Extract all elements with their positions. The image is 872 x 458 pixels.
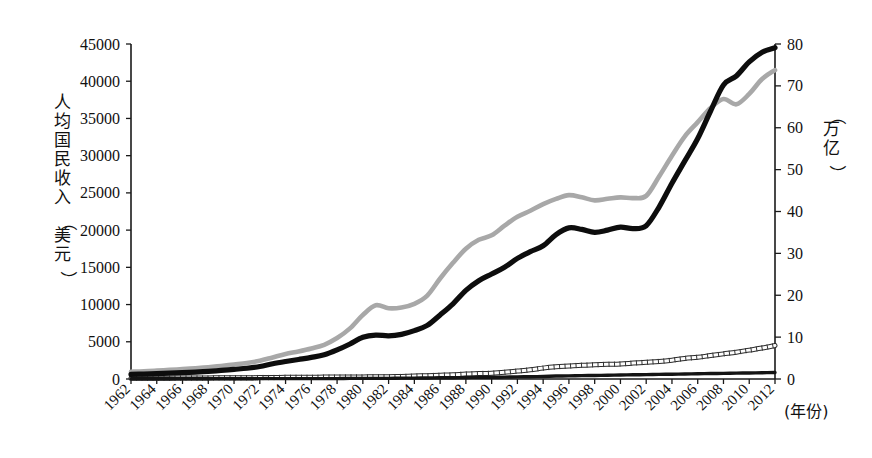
x-axis-tick-label: 2008 bbox=[693, 381, 726, 414]
y-axis-left-tick-label: 20000 bbox=[80, 222, 120, 239]
y-axis-left-tick-label: 25000 bbox=[80, 184, 120, 201]
series-hatch-mark bbox=[537, 366, 538, 371]
x-axis-tick-label: 1982 bbox=[358, 381, 391, 414]
y-axis-right-tick-label: 10 bbox=[787, 329, 803, 346]
series-hatch-mark bbox=[548, 365, 549, 370]
x-axis-tick-label: 1980 bbox=[332, 381, 365, 414]
series-hatch-mark bbox=[724, 351, 725, 356]
x-axis-ticks: 1962196419661968197019721974197619781980… bbox=[101, 379, 778, 413]
series-hatch-mark bbox=[669, 358, 670, 363]
y-axis-left-title-char: 收 bbox=[54, 168, 71, 188]
series-hatch-mark bbox=[543, 366, 544, 371]
series-line-thick-black-line bbox=[131, 48, 775, 375]
series-hatch-mark bbox=[510, 369, 511, 374]
y-axis-right-tick-label: 80 bbox=[787, 36, 803, 53]
chart-canvas: 0500010000150002000025000300003500040000… bbox=[0, 0, 872, 458]
x-axis-tick-label: 1972 bbox=[229, 381, 262, 414]
y-axis-right-title-char: 亿 bbox=[823, 138, 840, 158]
y-axis-left-tick-label: 40000 bbox=[80, 73, 120, 90]
y-axis-right-tick-label: 20 bbox=[787, 287, 803, 304]
y-axis-left-title-char: 美 bbox=[54, 225, 71, 245]
x-axis-tick-label: 1968 bbox=[178, 381, 211, 414]
x-axis-tick-label: 1984 bbox=[384, 380, 417, 413]
series-hatch-mark bbox=[718, 352, 719, 357]
y-axis-right-title: （万亿） bbox=[823, 108, 848, 182]
series-hatch-mark bbox=[532, 367, 533, 372]
y-axis-left-title-char: 元 bbox=[54, 244, 71, 264]
x-axis-tick-label: 1966 bbox=[152, 380, 185, 413]
x-axis-tick-label: 1964 bbox=[126, 380, 159, 413]
x-axis-tick-label: 1976 bbox=[281, 380, 314, 413]
y-axis-left-tick-label: 15000 bbox=[80, 259, 120, 276]
x-axis-tick-label: 2004 bbox=[642, 380, 675, 413]
y-axis-left-tick-label: 45000 bbox=[80, 36, 120, 53]
y-axis-right-tick-label: 60 bbox=[787, 119, 803, 136]
y-axis-left-ticks: 0500010000150002000025000300003500040000… bbox=[80, 36, 131, 388]
y-axis-left-tick-label: 30000 bbox=[80, 147, 120, 164]
y-axis-right-tick-label: 0 bbox=[787, 371, 795, 388]
y-axis-left-title-char: 均 bbox=[54, 111, 71, 131]
series-hatch-mark bbox=[702, 354, 703, 359]
x-axis-tick-label: 1986 bbox=[410, 380, 443, 413]
series-hatch-mark bbox=[675, 357, 676, 362]
x-axis-tick-label: 1998 bbox=[564, 381, 597, 414]
y-axis-left-title-char: 国 bbox=[54, 130, 71, 150]
series-hatch-mark bbox=[707, 353, 708, 358]
x-axis-tick-label: 1974 bbox=[255, 380, 288, 413]
x-axis-tick-label: 1994 bbox=[513, 380, 546, 413]
series-hatch-mark bbox=[729, 351, 730, 356]
x-axis-unit-label: (年份) bbox=[784, 402, 828, 421]
chart-figure: 0500010000150002000025000300003500040000… bbox=[0, 0, 872, 458]
series-line-thick-gray-line bbox=[131, 70, 775, 372]
x-axis-tick-label: 1962 bbox=[101, 381, 134, 414]
series-hatch-mark bbox=[527, 368, 528, 373]
x-axis-tick-label: 1978 bbox=[307, 381, 340, 414]
y-axis-right-tick-label: 70 bbox=[787, 77, 803, 94]
y-axis-left-title-char: 民 bbox=[54, 149, 71, 169]
y-axis-left-tick-label: 10000 bbox=[80, 296, 120, 313]
y-axis-left-title: 人均国民收入（美元） bbox=[54, 92, 79, 288]
series-hatch-mark bbox=[713, 353, 714, 358]
y-axis-right-title-char: ） bbox=[827, 165, 847, 182]
y-axis-left-tick-label: 35000 bbox=[80, 110, 120, 127]
x-axis-tick-label: 1970 bbox=[204, 381, 237, 414]
series-hatch-mark bbox=[696, 355, 697, 360]
series-layer bbox=[131, 48, 775, 381]
series-hatch-mark bbox=[516, 369, 517, 374]
x-axis-tick-label: 1992 bbox=[487, 381, 520, 414]
y-axis-left-title-char: 入 bbox=[54, 187, 71, 207]
x-axis-tick-label: 2000 bbox=[590, 381, 623, 414]
series-hatch-mark bbox=[680, 356, 681, 361]
y-axis-left-title-char: ） bbox=[58, 271, 78, 288]
y-axis-right-ticks: 01020304050607080 bbox=[775, 36, 803, 388]
y-axis-left-title-char: 人 bbox=[54, 92, 71, 112]
x-axis-tick-label: 2010 bbox=[719, 381, 752, 414]
x-axis-tick-label: 2006 bbox=[667, 380, 700, 413]
y-axis-right-tick-label: 50 bbox=[787, 161, 803, 178]
y-axis-right-title-char: 万 bbox=[823, 119, 840, 139]
y-axis-right-tick-label: 30 bbox=[787, 245, 803, 262]
x-axis-tick-label: 1990 bbox=[461, 381, 494, 414]
x-axis-tick-label: 2002 bbox=[616, 381, 649, 414]
x-axis-tick-label: 1996 bbox=[539, 380, 572, 413]
axes-group bbox=[131, 44, 775, 379]
y-axis-left-tick-label: 5000 bbox=[88, 333, 120, 350]
series-hatch-mark bbox=[685, 356, 686, 361]
y-axis-right-tick-label: 40 bbox=[787, 203, 803, 220]
x-axis-tick-label: 1988 bbox=[435, 381, 468, 414]
x-axis-tick-label: 2012 bbox=[745, 381, 778, 414]
